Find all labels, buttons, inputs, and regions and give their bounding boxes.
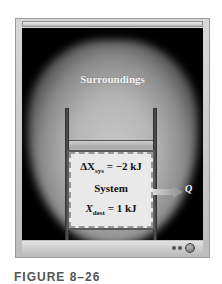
system-label: System: [71, 182, 151, 194]
delta-x-value: = −2 kJ: [107, 160, 142, 172]
surroundings-label: Surroundings: [22, 73, 203, 85]
heat-arrow-icon: [153, 186, 183, 198]
system-box: ΔXsys = −2 kJ System Xdest = 1 kJ: [69, 152, 153, 228]
more-dots-icon[interactable]: [178, 246, 182, 250]
cylinder-wall-right: [153, 108, 157, 240]
dest-subscript: dest: [93, 209, 105, 217]
sys-subscript: sys: [95, 167, 104, 175]
circle-button-icon[interactable]: [185, 243, 195, 253]
bottom-bar: [22, 241, 203, 255]
top-bar: [22, 21, 203, 27]
figure-caption: FIGURE 8–26: [14, 270, 100, 284]
figure-frame: Surroundings ΔXsys = −2 kJ System Xdest …: [15, 18, 210, 258]
more-dots-icon[interactable]: [172, 246, 176, 250]
heat-q-label: Q: [185, 183, 192, 194]
delta-x-sys-equation: ΔXsys = −2 kJ: [71, 160, 151, 175]
x-symbol: X: [85, 202, 92, 214]
x-dest-equation: Xdest = 1 kJ: [71, 202, 151, 217]
delta-x-symbol: ΔX: [80, 160, 95, 172]
diagram-screen: Surroundings ΔXsys = −2 kJ System Xdest …: [22, 28, 203, 240]
x-dest-value: = 1 kJ: [108, 202, 137, 214]
